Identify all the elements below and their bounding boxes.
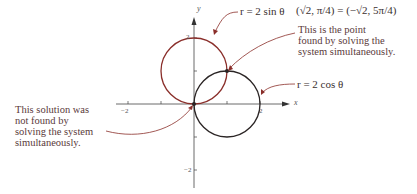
arrowhead-icon (188, 105, 193, 110)
y-axis-label: y (197, 4, 201, 13)
annotation-line: This is the point (298, 24, 395, 35)
cos-label-leader (262, 84, 295, 93)
x-tick-neg2: −2 (121, 107, 128, 115)
annotation-line: not found by (15, 115, 93, 126)
arrowhead-icon (261, 89, 265, 95)
sin-label-leader (215, 12, 238, 32)
cos-curve-label: r = 2 cos θ (297, 78, 343, 90)
annotation-line: This solution was (15, 104, 93, 115)
y-axis-arrow-icon (192, 17, 197, 25)
origin-leader (106, 107, 192, 134)
annotation-line: simultaneously. (15, 137, 93, 148)
sin-curve-label: r = 2 sin θ (240, 5, 284, 17)
point-not-found-annotation: This solution was not found by solving t… (15, 104, 93, 148)
intersection-point (225, 69, 229, 73)
intersection-label: (√2, π/4) = (−√2, 5π/4) (296, 4, 396, 16)
annotation-line: system simultaneously. (298, 46, 395, 57)
x-axis-label: x (294, 98, 298, 107)
x-tick-2: 2 (259, 107, 263, 115)
annotation-line: found by solving the (298, 35, 395, 46)
intersection-leader (229, 33, 295, 69)
annotation-line: solving the system (15, 126, 93, 137)
x-axis-arrow-icon (282, 102, 290, 107)
y-tick-2: 2 (186, 33, 190, 41)
point-found-annotation: This is the point found by solving the s… (298, 24, 395, 57)
arrowhead-icon (213, 29, 218, 35)
y-tick-neg2: −2 (184, 166, 191, 174)
